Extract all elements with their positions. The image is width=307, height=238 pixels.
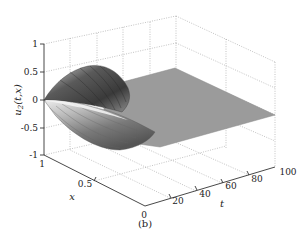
z-tick-label: -1 — [29, 150, 38, 160]
x-axis-label: x — [69, 191, 75, 202]
t-axis-line — [145, 167, 275, 206]
z-label-args: (t,x) — [12, 84, 23, 105]
x-tick-label: 0.5 — [78, 179, 93, 189]
t-tick-label: 20 — [172, 196, 184, 206]
t-tick-label: 60 — [225, 181, 237, 191]
svg-text:u2(t,x): u2(t,x) — [12, 84, 25, 116]
z-tick-label: 0.5 — [24, 67, 39, 77]
t-tick-label: 40 — [199, 189, 211, 199]
t-axis-label: t — [220, 198, 225, 209]
z-tick-label: -0.5 — [21, 123, 39, 133]
z-tick-label: 0 — [32, 95, 38, 105]
t-tick-label: 100 — [279, 167, 296, 177]
x-tick-label: 1 — [39, 159, 45, 169]
z-tick-label: 1 — [32, 39, 38, 49]
surface-plot: 1 0.5 0 -0.5 -1 u2(t,x) 1 0.5 0 x 20 40 … — [0, 0, 307, 238]
z-axis-label: u2(t,x) — [12, 84, 25, 116]
surface-plot-figure: 1 0.5 0 -0.5 -1 u2(t,x) 1 0.5 0 x 20 40 … — [0, 0, 307, 238]
figure-caption: (b) — [138, 218, 152, 229]
t-tick-label: 80 — [251, 174, 263, 184]
